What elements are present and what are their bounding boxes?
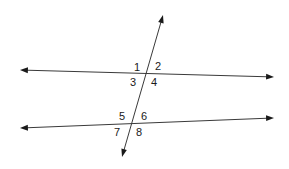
- angle-labels: 1 2 3 4 5 6 7 8: [114, 60, 161, 138]
- angle-label-3: 3: [130, 76, 136, 88]
- angle-label-1: 1: [134, 61, 140, 73]
- arrowhead-up-icon: [158, 15, 163, 24]
- arrowhead-left-icon: [20, 125, 28, 131]
- angle-label-2: 2: [155, 60, 161, 72]
- arrowhead-right-icon: [266, 115, 274, 121]
- transversal-line: [121, 15, 163, 157]
- angle-label-6: 6: [141, 110, 147, 122]
- arrowhead-right-icon: [266, 74, 274, 80]
- angle-label-4: 4: [151, 76, 157, 88]
- arrowhead-down-icon: [121, 149, 126, 158]
- angle-label-8: 8: [136, 126, 142, 138]
- angle-label-7: 7: [114, 126, 120, 138]
- angle-label-5: 5: [119, 110, 125, 122]
- arrowhead-left-icon: [20, 67, 28, 73]
- parallel-lines-transversal-diagram: 1 2 3 4 5 6 7 8: [0, 0, 289, 169]
